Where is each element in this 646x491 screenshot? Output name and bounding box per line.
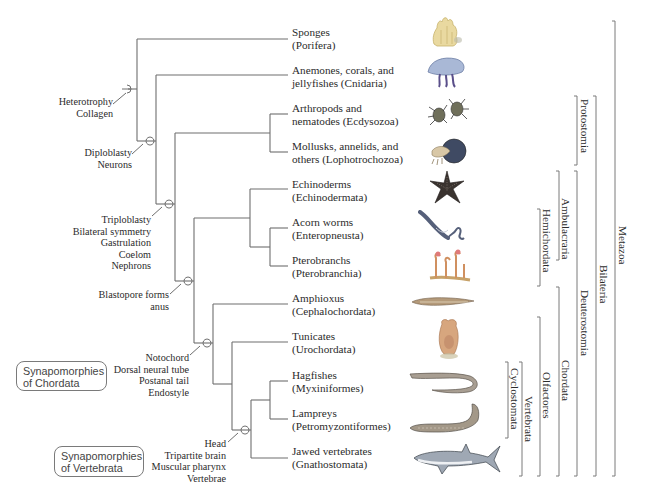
synapomorphy-line: Endostyle <box>114 387 189 399</box>
taxon-scientific-name: (Pterobranchia) <box>292 267 362 280</box>
box-line: Synapomorphies <box>23 365 100 377</box>
synapomorphy-line: Collagen <box>59 108 113 120</box>
box-line: of Vertebrata <box>61 462 137 474</box>
pterobranch-icon <box>428 248 472 284</box>
taxon-echinodermata: Echinoderms (Echinodermata) <box>292 178 367 204</box>
nautilus-icon <box>428 137 468 167</box>
taxon-scientific-name: others (Lophotrochozoa) <box>292 153 403 166</box>
clade-deuterostomia: Deuterostomia <box>579 290 591 356</box>
taxon-urochordata: Tunicates (Urochordata) <box>292 330 355 356</box>
synapomorphy-line: Muscular pharynx <box>152 461 226 473</box>
synapomorphy-line: Triploblasty <box>73 214 151 226</box>
acorn-worm-icon <box>418 210 468 246</box>
taxon-porifera: Sponges (Porifera) <box>292 26 335 52</box>
jellyfish-icon <box>424 54 468 88</box>
synapomorphy-line: Gastrulation <box>73 237 151 249</box>
taxon-common-name: Jawed vertebrates <box>292 445 372 458</box>
taxon-common-name: Tunicates <box>292 330 355 343</box>
taxon-common-name: Echinoderms <box>292 178 367 191</box>
clade-bilateria: Bilateria <box>598 265 610 304</box>
synapomorphy-deuterostomia: Blastopore forms anus <box>99 289 169 312</box>
synapomorphy-line: Heterotrophy <box>59 96 113 108</box>
taxon-scientific-name: (Gnathostomata) <box>292 458 372 471</box>
synapomorphy-line: Tripartite brain <box>152 450 226 462</box>
sponge-icon <box>428 14 464 50</box>
synapomorphy-eumetazoa: Diploblasty Neurons <box>84 147 132 170</box>
lamprey-icon <box>408 402 484 436</box>
taxon-enteropneusta: Acorn worms (Enteropneusta) <box>292 216 363 242</box>
vertebrata-synapomorphies-box: Synapomorphies of Vertebrata <box>54 446 144 477</box>
synapomorphy-vertebrata: Head Tripartite brain Muscular pharynx V… <box>152 438 226 484</box>
clade-vertebrata: Vertebrata <box>523 396 535 442</box>
taxon-common-name: Lampreys <box>292 407 391 420</box>
synapomorphy-line: Vertebrae <box>152 473 226 485</box>
synapomorphy-line: Diploblasty <box>84 147 132 159</box>
taxon-ecdysozoa: Arthropods and nematodes (Ecdysozoa) <box>292 102 399 128</box>
synapomorphy-line: Postanal tail <box>114 375 189 387</box>
clade-olfactores: Olfactores <box>541 372 553 419</box>
amphioxus-icon <box>410 294 476 310</box>
taxon-common-name: Acorn worms <box>292 216 363 229</box>
synapomorphy-line: Bilateral symmetry <box>73 226 151 238</box>
taxon-common-name: Arthropods and <box>292 102 399 115</box>
synapomorphy-line: Coelom <box>73 249 151 261</box>
tunicate-icon <box>436 318 462 360</box>
taxon-common-name: Hagfishes <box>292 369 363 382</box>
taxon-scientific-name: (Myxiniformes) <box>292 382 363 395</box>
synapomorphy-line: Notochord <box>114 352 189 364</box>
synapomorphy-line: Blastopore forms <box>99 289 169 301</box>
box-line: Synapomorphies <box>61 450 137 462</box>
taxon-common-name: Sponges <box>292 26 335 39</box>
taxon-lophotrochozoa: Mollusks, annelids, and others (Lophotro… <box>292 140 403 166</box>
clade-metazoa: Metazoa <box>617 226 629 265</box>
taxon-gnathostomata: Jawed vertebrates (Gnathostomata) <box>292 445 372 471</box>
taxon-pterobranchia: Pterobranchs (Pterobranchia) <box>292 254 362 280</box>
taxon-scientific-name: jellyfishes (Cnidaria) <box>292 77 394 90</box>
shark-icon <box>412 442 502 476</box>
taxon-cephalochordata: Amphioxus (Cephalochordata) <box>292 292 375 318</box>
clade-ambulacraria: Ambulacraria <box>560 198 572 260</box>
taxon-scientific-name: (Petromyzontiformes) <box>292 420 391 433</box>
chordata-synapomorphies-box: Synapomorphies of Chordata <box>16 361 107 391</box>
synapomorphy-line: anus <box>99 301 169 313</box>
clade-cyclostomata: Cyclostomata <box>509 368 521 430</box>
taxon-cnidaria: Anemones, corals, and jellyfishes (Cnida… <box>292 64 394 90</box>
starfish-icon <box>427 169 467 205</box>
taxon-scientific-name: (Cephalochordata) <box>292 305 375 318</box>
clade-chordata: Chordata <box>560 360 572 401</box>
synapomorphy-line: Nephrons <box>73 260 151 272</box>
taxon-common-name: Anemones, corals, and <box>292 64 394 77</box>
synapomorphy-line: Dorsal neural tube <box>114 364 189 376</box>
taxon-petromyzontiformes: Lampreys (Petromyzontiformes) <box>292 407 391 433</box>
spider-icon <box>425 95 471 129</box>
taxon-common-name: Amphioxus <box>292 292 375 305</box>
synapomorphy-metazoa: Heterotrophy Collagen <box>59 96 113 119</box>
synapomorphy-line: Head <box>152 438 226 450</box>
synapomorphy-line: Neurons <box>84 159 132 171</box>
box-line: of Chordata <box>23 377 100 389</box>
taxon-scientific-name: (Echinodermata) <box>292 191 367 204</box>
taxon-scientific-name: (Enteropneusta) <box>292 229 363 242</box>
clade-hemichordata: Hemichordata <box>541 209 553 272</box>
taxon-scientific-name: (Porifera) <box>292 39 335 52</box>
clade-protostomia: Protostomia <box>579 99 591 153</box>
taxon-common-name: Pterobranchs <box>292 254 362 267</box>
hagfish-icon <box>408 368 483 396</box>
taxon-scientific-name: (Urochordata) <box>292 343 355 356</box>
synapomorphy-bilateria: Triploblasty Bilateral symmetry Gastrula… <box>73 214 151 272</box>
taxon-myxiniformes: Hagfishes (Myxiniformes) <box>292 369 363 395</box>
taxon-common-name: Mollusks, annelids, and <box>292 140 403 153</box>
taxon-scientific-name: nematodes (Ecdysozoa) <box>292 115 399 128</box>
synapomorphy-chordata: Notochord Dorsal neural tube Postanal ta… <box>114 352 189 398</box>
